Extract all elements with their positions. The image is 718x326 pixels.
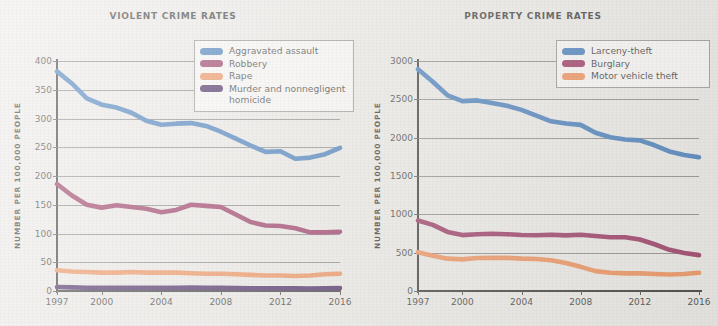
- legend-swatch-icon: [562, 48, 585, 55]
- x-tick-mark: [522, 291, 523, 295]
- legend-label: Larceny-theft: [591, 45, 652, 57]
- property-crime-chart-panel: PROPERTY CRIME RATES NUMBER PER 100,000 …: [358, 0, 718, 326]
- legend-swatch-icon: [200, 85, 223, 92]
- property-y-tick-label: 2500: [390, 94, 413, 104]
- property-y-tick-label: 500: [396, 248, 413, 258]
- x-tick-mark: [161, 291, 162, 295]
- x-tick-mark: [418, 291, 419, 295]
- property-y-tick-label: 1000: [390, 209, 413, 219]
- series-line-robbery: [57, 184, 340, 232]
- legend-swatch-icon: [562, 73, 585, 80]
- violent-y-axis-label: NUMBER PER 100,000 PEOPLE: [10, 60, 24, 292]
- legend-item-robbery[interactable]: Robbery: [200, 58, 346, 70]
- x-tick-mark: [280, 291, 281, 295]
- legend-item-murder-and-nonnegligent-homicide[interactable]: Murder and nonnegligent homicide: [200, 83, 346, 106]
- property-x-tick-label: 2016: [688, 297, 711, 307]
- property-plot-area: 0500100015002000250030001997200020042008…: [418, 61, 699, 291]
- legend-item-burglary[interactable]: Burglary: [562, 58, 702, 70]
- violent-y-tick-label: 0: [46, 286, 52, 296]
- property-y-tick-label: 3000: [390, 56, 413, 66]
- violent-y-tick-label: 200: [35, 171, 52, 181]
- x-tick-mark: [221, 291, 222, 295]
- property-x-tick-label: 2000: [451, 297, 474, 307]
- property-y-tick-label: 0: [407, 286, 413, 296]
- legend-item-rape[interactable]: Rape: [200, 70, 346, 82]
- violent-legend: Aggravated assaultRobberyRapeMurder and …: [194, 40, 354, 112]
- property-legend: Larceny-theftBurglaryMotor vehicle theft: [556, 40, 710, 88]
- legend-item-aggravated-assault[interactable]: Aggravated assault: [200, 45, 346, 57]
- violent-x-tick-label: 2016: [329, 297, 352, 307]
- property-y-tick-label: 2000: [390, 133, 413, 143]
- legend-label: Burglary: [591, 58, 630, 70]
- legend-label: Motor vehicle theft: [591, 70, 678, 82]
- x-tick-mark: [699, 291, 700, 295]
- series-line-rape: [57, 270, 340, 276]
- violent-y-tick-label: 350: [35, 85, 52, 95]
- violent-y-tick-label: 300: [35, 114, 52, 124]
- legend-swatch-icon: [562, 60, 585, 67]
- x-tick-mark: [102, 291, 103, 295]
- x-tick-mark: [462, 291, 463, 295]
- legend-swatch-icon: [200, 73, 223, 80]
- violent-x-tick-label: 1997: [46, 297, 69, 307]
- violent-x-tick-label: 2008: [209, 297, 232, 307]
- legend-label: Murder and nonnegligent homicide: [229, 83, 345, 106]
- series-line-murder-and-nonnegligent-homicide: [57, 287, 340, 289]
- violent-y-tick-label: 50: [41, 257, 52, 267]
- violent-y-tick-label: 150: [35, 200, 52, 210]
- legend-swatch-icon: [200, 60, 223, 67]
- x-tick-mark: [581, 291, 582, 295]
- property-y-tick-label: 1500: [390, 171, 413, 181]
- legend-label: Aggravated assault: [229, 45, 318, 57]
- violent-x-tick-label: 2004: [150, 297, 173, 307]
- legend-label: Robbery: [229, 58, 267, 70]
- x-tick-mark: [57, 291, 58, 295]
- legend-item-motor-vehicle-theft[interactable]: Motor vehicle theft: [562, 70, 702, 82]
- legend-swatch-icon: [200, 48, 223, 55]
- x-tick-mark: [640, 291, 641, 295]
- violent-y-tick-label: 250: [35, 142, 52, 152]
- violent-x-tick-label: 2012: [269, 297, 292, 307]
- property-y-axis-label: NUMBER PER 100,000 PEOPLE: [370, 60, 384, 292]
- violent-y-tick-label: 100: [35, 229, 52, 239]
- series-line-motor-vehicle-theft: [418, 252, 699, 274]
- property-x-tick-label: 2012: [628, 297, 651, 307]
- x-tick-mark: [340, 291, 341, 295]
- violent-x-tick-label: 2000: [90, 297, 113, 307]
- series-line-burglary: [418, 221, 699, 256]
- violent-y-tick-label: 400: [35, 56, 52, 66]
- property-x-tick-label: 1997: [407, 297, 430, 307]
- property-x-tick-label: 2004: [510, 297, 533, 307]
- property-x-tick-label: 2008: [569, 297, 592, 307]
- violent-chart-title: VIOLENT CRIME RATES: [8, 11, 338, 21]
- property-chart-title: PROPERTY CRIME RATES: [368, 11, 698, 21]
- legend-item-larceny-theft[interactable]: Larceny-theft: [562, 45, 702, 57]
- legend-label: Rape: [229, 70, 252, 82]
- violent-crime-chart-panel: VIOLENT CRIME RATES NUMBER PER 100,000 P…: [0, 0, 360, 326]
- property-series-layer: [418, 61, 699, 291]
